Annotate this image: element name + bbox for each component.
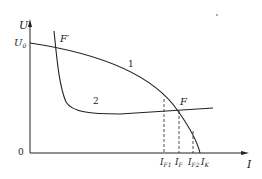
- point-f-label: F: [180, 97, 187, 107]
- u0-sub: 0: [22, 42, 26, 49]
- curve-2-label: 2: [93, 97, 99, 106]
- tick-if2-sub: F2: [192, 161, 200, 168]
- point-f-prime-label: F′: [60, 34, 69, 44]
- x-axis-label: I: [247, 159, 251, 170]
- stray-dot: [216, 14, 218, 16]
- curve-2: [54, 31, 213, 114]
- tick-if: IF: [175, 158, 183, 168]
- curve-1-label: 1: [128, 60, 134, 69]
- tick-if1: IF1: [160, 158, 172, 168]
- curve-1: [30, 43, 200, 153]
- y-axis-arrow-icon: [28, 19, 32, 27]
- tick-if1-sub: F1: [164, 161, 172, 168]
- x-axis-arrow-icon: [241, 151, 249, 155]
- tick-ik-sub: K: [205, 161, 209, 168]
- tick-ik: IK: [201, 158, 209, 168]
- origin-label: 0: [18, 148, 24, 157]
- u0-label: U0: [14, 38, 26, 49]
- tick-if-sub: F: [179, 161, 183, 168]
- tick-if2: IF2: [188, 158, 200, 168]
- y-axis-label: U: [19, 20, 28, 31]
- diagram-canvas: [0, 0, 262, 179]
